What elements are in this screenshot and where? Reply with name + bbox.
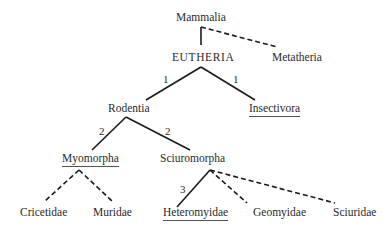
edge-myomorpha-cricetidae (45, 170, 79, 201)
node-heteromyidae: Heteromyidae (163, 206, 228, 221)
edge-label-sciuromorpha-heteromyidae: 3 (180, 184, 186, 195)
edge-rodentia-sciuromorpha (126, 117, 190, 150)
node-mammalia: Mammalia (176, 11, 226, 23)
node-sciuridae: Sciuridae (333, 206, 376, 218)
node-insectivora: Insectivora (249, 102, 300, 117)
edge-label-eutheria-rodentia: 1 (163, 74, 169, 85)
edge-mammalia-metatheria (201, 27, 277, 47)
node-muridae: Muridae (93, 206, 132, 218)
node-cricetidae: Cricetidae (20, 206, 67, 218)
node-eutheria: EUTHERIA (172, 51, 234, 63)
node-myomorpha: Myomorpha (62, 152, 119, 167)
tree-edges (0, 0, 392, 227)
edge-label-rodentia-myomorpha: 2 (99, 126, 105, 137)
node-geomyidae: Geomyidae (253, 206, 306, 218)
node-sciuromorpha: Sciuromorpha (160, 152, 225, 164)
edge-eutheria-rodentia (146, 67, 201, 100)
edge-myomorpha-muridae (79, 170, 112, 201)
edge-label-rodentia-sciuromorpha: 2 (165, 126, 171, 137)
node-metatheria: Metatheria (272, 51, 322, 63)
node-rodentia: Rodentia (108, 102, 150, 114)
edge-label-eutheria-insectivora: 1 (233, 74, 239, 85)
edge-rodentia-myomorpha (92, 117, 126, 150)
edge-eutheria-insectivora (201, 67, 255, 100)
